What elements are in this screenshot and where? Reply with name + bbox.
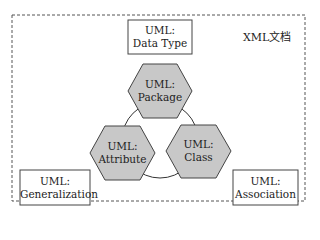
label-line: Class (166, 151, 231, 164)
label-line: UML: (90, 140, 155, 153)
label-line: UML: (128, 24, 192, 37)
generalization-label: UML: Generalization (20, 175, 90, 201)
label-line: UML: (166, 138, 231, 151)
label-line: Attribute (90, 153, 155, 166)
label-line: UML: (128, 78, 192, 91)
label-line: Package (128, 91, 192, 104)
class-label: UML: Class (166, 138, 231, 164)
attribute-label: UML: Attribute (90, 140, 155, 166)
package-label: UML: Package (128, 78, 192, 104)
data-type-label: UML: Data Type (128, 24, 192, 50)
label-line: Generalization (20, 188, 90, 201)
label-line: Data Type (128, 37, 192, 50)
xml-document-label: XML文档 (243, 31, 291, 44)
label-line: Association (233, 188, 298, 201)
association-label: UML: Association (233, 175, 298, 201)
label-line: UML: (20, 175, 90, 188)
label-line: UML: (233, 175, 298, 188)
